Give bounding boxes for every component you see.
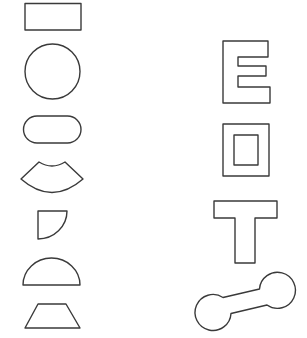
circle-shape <box>25 44 80 99</box>
dumbbell-shape <box>195 272 295 330</box>
quarter-circle-shape <box>38 211 67 239</box>
shapes-svg <box>0 0 307 338</box>
left-column <box>21 4 83 329</box>
letter-t-shape <box>214 201 277 263</box>
rectangle-shape <box>25 4 81 31</box>
framed-rectangle-shape <box>223 124 269 176</box>
right-column <box>195 41 295 330</box>
shapes-figure <box>0 0 307 338</box>
stadium-shape <box>24 116 82 143</box>
trapezoid-shape <box>25 304 80 328</box>
semicircle-shape <box>23 258 80 285</box>
annular-sector-shape <box>21 162 83 193</box>
letter-e-shape <box>223 41 270 103</box>
